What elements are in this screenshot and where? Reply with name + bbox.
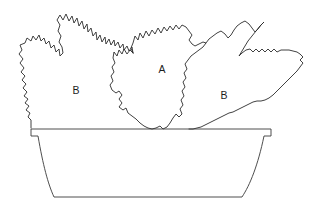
right-foliage-mass [189, 21, 303, 129]
planter-body-right-side [242, 136, 264, 197]
right-plant-label: B [220, 89, 227, 101]
planter-rim-left-return [31, 129, 38, 136]
botanical-line-drawing: B A B [0, 0, 328, 213]
figure-canvas: B A B [0, 0, 328, 213]
planter-body-left-side [38, 136, 54, 197]
left-foliage-mass [19, 14, 133, 128]
planter-rim-right-return [264, 129, 271, 136]
center-foliage-mass [110, 25, 206, 129]
left-plant-label: B [72, 84, 79, 96]
center-plant-label: A [158, 63, 165, 75]
